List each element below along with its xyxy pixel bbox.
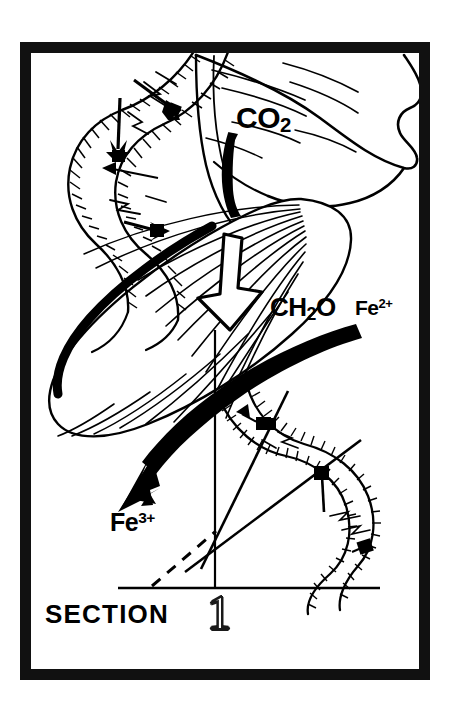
- label-ch2o: CH2O: [270, 294, 336, 324]
- label-fe3: Fe3+: [110, 510, 155, 535]
- label-fe2: Fe2+: [355, 297, 392, 318]
- label-fe3-base: Fe: [110, 508, 138, 536]
- label-co2-base: CO: [236, 101, 280, 134]
- section-caption-number: 1: [207, 588, 232, 637]
- label-co2-sub: 2: [280, 114, 291, 136]
- label-ch2o-sub: 2: [307, 304, 316, 324]
- label-fe2-base: Fe: [355, 296, 379, 319]
- label-co2: CO2: [236, 103, 291, 136]
- label-ch2o-base: CH: [270, 292, 307, 322]
- label-fe2-sup: 2+: [379, 296, 393, 311]
- label-fe3-sup: 3+: [138, 509, 155, 526]
- section-caption-word: SECTION: [45, 601, 169, 627]
- figure-page: CO2 CH2O Fe2+ Fe3+ SECTION 1: [0, 0, 461, 723]
- label-ch2o-tail: O: [316, 292, 336, 322]
